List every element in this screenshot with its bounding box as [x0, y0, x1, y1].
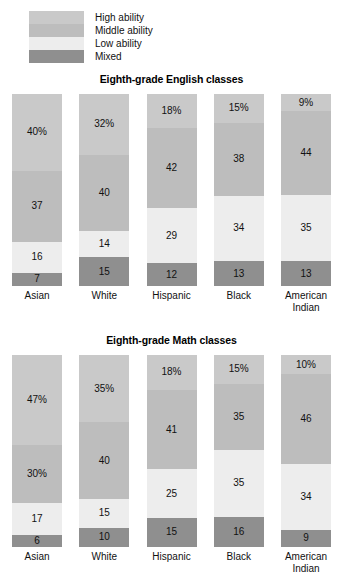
- bar-segment: 15%: [214, 94, 264, 123]
- bar-segment-value: 10%: [281, 359, 331, 370]
- legend-swatch-icon: [29, 50, 84, 63]
- bar-segment: 35: [281, 195, 331, 262]
- bar-segment: 15: [79, 499, 129, 528]
- bar-segment: 17: [12, 503, 62, 536]
- category-axis-labels: AsianWhiteHispanicBlackAmerican Indian: [0, 551, 343, 575]
- stacked-bar[interactable]: 10%46349: [281, 355, 331, 547]
- chart-legend: High abilityMiddle abilityLow abilityMix…: [29, 11, 229, 63]
- category-label: American Indian: [281, 290, 331, 314]
- legend-item-label: Mixed: [95, 50, 122, 63]
- legend-item: Mixed: [29, 50, 229, 63]
- bar-segment: 16: [12, 242, 62, 273]
- bar-segment: 12: [147, 263, 197, 286]
- stacked-bar[interactable]: 15%353516: [214, 355, 264, 547]
- chart-eighth-grade-english: Eighth-grade English classes 40%3716732%…: [0, 72, 343, 314]
- stacked-bar[interactable]: 47%30%176: [12, 355, 62, 547]
- bar-segment: 35%: [79, 355, 129, 422]
- bar-segment-value: 13: [281, 268, 331, 279]
- legend-item: Middle ability: [29, 24, 229, 37]
- bar-segment-value: 13: [214, 268, 264, 279]
- bar-segment: 7: [12, 273, 62, 286]
- bar-segment-value: 35%: [79, 383, 129, 394]
- bar-segment-value: 34: [281, 491, 331, 502]
- legend-item-label: Low ability: [95, 37, 142, 50]
- bar-segment-value: 29: [147, 230, 197, 241]
- stacked-bar[interactable]: 18%412515: [147, 355, 197, 547]
- stacked-bar[interactable]: 9%443513: [281, 94, 331, 286]
- bar-segment-value: 15%: [214, 103, 264, 114]
- bar-segment-value: 40: [79, 187, 129, 198]
- bar-segment-value: 40%: [12, 126, 62, 137]
- bar-segment: 13: [214, 261, 264, 286]
- legend-item: Low ability: [29, 37, 229, 50]
- bar-segment-value: 16: [214, 526, 264, 537]
- stacked-bar[interactable]: 18%422912: [147, 94, 197, 286]
- bar-segment-value: 37: [12, 200, 62, 211]
- legend-item: High ability: [29, 11, 229, 24]
- chart-title: Eighth-grade Math classes: [0, 333, 343, 347]
- bar-segment-value: 9: [281, 533, 331, 544]
- bar-segment: 18%: [147, 355, 197, 390]
- bar-segment: 40: [79, 155, 129, 231]
- legend-item-label: High ability: [95, 11, 144, 24]
- bar-segment-value: 40: [79, 455, 129, 466]
- bar-segment-value: 18%: [147, 367, 197, 378]
- category-label: Asian: [12, 290, 62, 314]
- category-label: Asian: [12, 551, 62, 575]
- bar-segment-value: 15: [79, 508, 129, 519]
- bar-segment-value: 47%: [12, 394, 62, 405]
- bar-segment: 29: [147, 208, 197, 263]
- bar-segment-value: 25: [147, 488, 197, 499]
- category-label: White: [79, 551, 129, 575]
- bar-segment: 34: [214, 196, 264, 261]
- bar-segment-value: 35: [214, 411, 264, 422]
- category-axis-labels: AsianWhiteHispanicBlackAmerican Indian: [0, 290, 343, 314]
- category-label: Hispanic: [147, 290, 197, 314]
- bar-segment-value: 16: [12, 251, 62, 262]
- bar-segment-value: 9%: [281, 97, 331, 108]
- category-label: Black: [214, 551, 264, 575]
- bar-segment: 18%: [147, 94, 197, 128]
- bar-segment-value: 18%: [147, 105, 197, 116]
- bar-segment: 41: [147, 390, 197, 470]
- bar-segment-value: 17: [12, 513, 62, 524]
- bar-segment: 40: [79, 422, 129, 499]
- chart-title: Eighth-grade English classes: [0, 72, 343, 86]
- stacked-bar[interactable]: 35%401510: [79, 355, 129, 547]
- bar-segment-value: 46: [281, 413, 331, 424]
- bar-segment: 40%: [12, 94, 62, 171]
- bar-segment: 15: [147, 518, 197, 547]
- bar-segment-value: 35: [214, 477, 264, 488]
- stacked-bar[interactable]: 32%401415: [79, 94, 129, 286]
- bar-segment-value: 14: [79, 238, 129, 249]
- bar-segment: 42: [147, 128, 197, 208]
- bar-segment: 47%: [12, 355, 62, 445]
- bar-segment: 9%: [281, 94, 331, 111]
- bar-segment-value: 15: [79, 266, 129, 277]
- bar-segment-value: 32%: [79, 118, 129, 129]
- bar-segment-value: 30%: [12, 468, 62, 479]
- legend-swatch-icon: [29, 11, 84, 24]
- bar-segment: 14: [79, 231, 129, 258]
- legend-swatch-icon: [29, 37, 84, 50]
- bar-segment: 6: [12, 535, 62, 547]
- bar-segment: 10: [79, 528, 129, 547]
- bar-segment: 46: [281, 374, 331, 463]
- stacked-bar[interactable]: 40%37167: [12, 94, 62, 286]
- bar-segment-value: 38: [214, 153, 264, 164]
- bar-segment: 44: [281, 111, 331, 195]
- bar-segment-value: 41: [147, 424, 197, 435]
- bar-segment-value: 6: [12, 535, 62, 546]
- bar-segment: 16: [214, 517, 264, 547]
- category-label: Black: [214, 290, 264, 314]
- legend-swatch-icon: [29, 24, 84, 37]
- bar-segment: 30%: [12, 445, 62, 503]
- legend-item-label: Middle ability: [95, 24, 153, 37]
- category-label: White: [79, 290, 129, 314]
- chart-eighth-grade-math: Eighth-grade Math classes 47%30%17635%40…: [0, 333, 343, 575]
- bar-segment-value: 44: [281, 147, 331, 158]
- stacked-bar[interactable]: 15%383413: [214, 94, 264, 286]
- bar-segment: 32%: [79, 94, 129, 155]
- bar-segment: 34: [281, 464, 331, 530]
- plot-area: 47%30%17635%40151018%41251515%35351610%4…: [0, 355, 343, 547]
